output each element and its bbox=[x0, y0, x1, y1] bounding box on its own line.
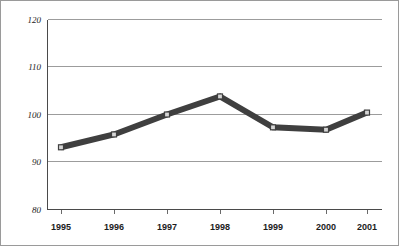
x-tick-label-1999: 1999 bbox=[263, 222, 283, 232]
y-tick-label-110: 110 bbox=[28, 62, 41, 72]
y-tick-label-80: 80 bbox=[32, 205, 42, 215]
chart-figure: 120 110 100 90 80 1995 1996 1997 1998 19… bbox=[0, 0, 399, 246]
x-axis-ticks bbox=[62, 210, 368, 214]
data-line-series-0 bbox=[61, 96, 367, 147]
x-tick-label-2001: 2001 bbox=[357, 222, 377, 232]
data-markers bbox=[59, 94, 370, 150]
data-point-2001 bbox=[365, 110, 370, 115]
y-tick-label-90: 90 bbox=[32, 157, 42, 167]
data-point-1998 bbox=[218, 94, 223, 99]
y-tick-labels: 120 110 100 90 80 bbox=[28, 15, 42, 215]
x-tick-label-1998: 1998 bbox=[210, 222, 230, 232]
line-chart: 120 110 100 90 80 1995 1996 1997 1998 19… bbox=[1, 1, 399, 246]
x-tick-label-1997: 1997 bbox=[157, 222, 177, 232]
y-tick-label-120: 120 bbox=[28, 15, 42, 25]
x-tick-label-1995: 1995 bbox=[51, 222, 71, 232]
y-tick-label-100: 100 bbox=[28, 110, 42, 120]
x-tick-labels: 1995 1996 1997 1998 1999 2000 2001 bbox=[51, 222, 377, 232]
data-point-2000 bbox=[324, 127, 329, 132]
data-point-1999 bbox=[271, 125, 276, 130]
data-point-1996 bbox=[112, 132, 117, 137]
data-point-1997 bbox=[165, 112, 170, 117]
x-tick-label-2000: 2000 bbox=[316, 222, 336, 232]
x-tick-label-1996: 1996 bbox=[104, 222, 124, 232]
data-point-1995 bbox=[59, 145, 64, 150]
